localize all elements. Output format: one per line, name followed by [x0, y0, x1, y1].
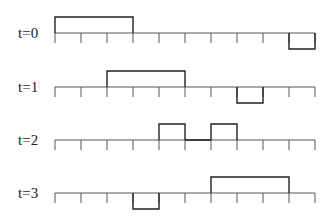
row-label: t=0	[18, 25, 38, 41]
negative-pulse	[237, 87, 263, 103]
positive-pulse	[107, 71, 185, 87]
row-label: t=2	[18, 132, 38, 148]
timeline-row: t=3	[18, 177, 315, 209]
timeline-row: t=2	[18, 124, 315, 150]
positive-pulse	[159, 124, 185, 140]
timeline-row: t=1	[18, 71, 315, 103]
timeline-rows: t=0t=1t=2t=3	[18, 17, 315, 209]
pulse-propagation-diagram: t=0t=1t=2t=3	[0, 0, 335, 218]
positive-pulse	[55, 17, 133, 33]
row-label: t=3	[18, 185, 38, 201]
row-label: t=1	[18, 79, 38, 95]
negative-pulse	[289, 33, 315, 49]
negative-pulse	[133, 193, 159, 209]
timeline-row: t=0	[18, 17, 315, 49]
positive-pulse	[211, 177, 289, 193]
positive-pulse	[211, 124, 237, 140]
